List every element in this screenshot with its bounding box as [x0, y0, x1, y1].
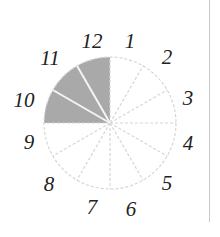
clock-number-label: 1 — [125, 31, 136, 52]
clock-number-label: 4 — [183, 133, 194, 154]
clock-number-label: 9 — [24, 132, 35, 153]
clock-number-label: 3 — [183, 88, 194, 109]
sector-divider — [110, 123, 167, 156]
clock-number-label: 2 — [162, 47, 173, 68]
unshaded-sector — [77, 123, 110, 189]
divider-line — [209, 0, 210, 222]
sector-divider — [110, 90, 167, 123]
clock-number-label: 8 — [44, 174, 55, 195]
sector-divider — [110, 66, 143, 123]
sector-divider — [77, 123, 110, 180]
clock-number-label: 10 — [14, 90, 35, 111]
clock-number-label: 11 — [40, 48, 59, 69]
clock-number-label: 6 — [126, 199, 137, 220]
unshaded-sector — [110, 123, 143, 189]
clock-number-label: 7 — [87, 197, 98, 218]
clock-number-label: 12 — [82, 31, 103, 52]
unshaded-sector — [44, 123, 110, 156]
sector-divider — [110, 123, 143, 180]
unshaded-sector — [110, 57, 143, 123]
unshaded-sector — [110, 90, 176, 123]
fraction-circle — [0, 0, 220, 237]
sector-divider — [53, 123, 110, 156]
clock-number-label: 5 — [162, 173, 173, 194]
unshaded-sector — [110, 123, 176, 156]
